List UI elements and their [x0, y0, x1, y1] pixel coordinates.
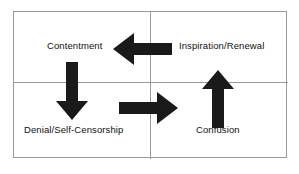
quadrant-label-contentment: Contentment [47, 40, 103, 51]
quadrant-cycle-diagram: Contentment Inspiration/Renewal Denial/S… [0, 0, 299, 174]
quadrant-label-denial-self-censorship: Denial/Self-Censorship [24, 124, 123, 135]
vertical-divider [150, 11, 151, 159]
horizontal-divider [13, 82, 288, 83]
quadrant-label-confusion: Confusion [196, 124, 240, 135]
quadrant-label-inspiration-renewal: Inspiration/Renewal [179, 40, 264, 51]
